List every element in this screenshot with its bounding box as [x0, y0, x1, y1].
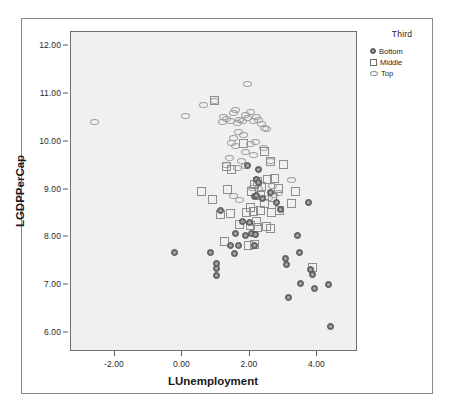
data-point-bottom — [296, 249, 303, 256]
data-point-middle — [279, 160, 288, 169]
x-tick-mark — [249, 351, 250, 356]
chart-figure-border: LGDPPerCap 6.007.008.009.0010.0011.0012.… — [21, 18, 433, 394]
y-tick-label: 11.00 — [40, 88, 61, 98]
data-point-bottom — [255, 166, 262, 173]
data-point-middle — [267, 208, 276, 217]
data-point-bottom — [227, 242, 234, 249]
open-ellipse-icon — [370, 71, 378, 76]
data-point-middle — [287, 199, 296, 208]
legend-entry-label: Top — [381, 69, 393, 78]
x-tick-mark — [114, 351, 115, 356]
data-point-top — [287, 177, 296, 183]
data-point-top — [249, 152, 258, 158]
y-tick-mark — [63, 188, 68, 189]
y-tick-mark — [63, 140, 68, 141]
y-tick-label: 7.00 — [44, 279, 61, 289]
data-point-bottom — [259, 195, 266, 202]
data-point-bottom — [285, 294, 292, 301]
x-tick-label: 2.00 — [240, 359, 257, 369]
data-point-middle — [274, 184, 283, 193]
x-axis-title: LUnemployment — [168, 375, 258, 387]
legend-title: Third — [371, 29, 433, 39]
data-point-middle — [266, 224, 275, 233]
data-point-bottom — [213, 272, 220, 279]
y-tick-label: 6.00 — [44, 327, 61, 337]
data-point-bottom — [207, 249, 214, 256]
data-point-middle — [197, 187, 206, 196]
data-point-middle — [223, 185, 232, 194]
legend-entry-bottom[interactable]: Bottom — [367, 46, 433, 56]
x-tick-mark — [181, 351, 182, 356]
data-point-top — [239, 132, 248, 138]
y-tick-mark — [63, 331, 68, 332]
data-point-top — [231, 107, 240, 113]
data-point-bottom — [232, 230, 239, 237]
y-tick-label: 9.00 — [44, 184, 61, 194]
data-point-bottom — [252, 231, 259, 238]
data-point-top — [262, 126, 271, 132]
data-point-top — [199, 102, 208, 108]
y-tick-mark — [63, 284, 68, 285]
open-square-icon — [370, 59, 377, 66]
data-point-bottom — [305, 199, 312, 206]
legend-entry-middle[interactable]: Middle — [367, 57, 433, 67]
y-tick-mark — [63, 45, 68, 46]
data-point-bottom — [311, 285, 318, 292]
x-axis: -2.000.002.004.00 LUnemployment — [70, 351, 357, 395]
y-axis: LGDPPerCap 6.007.008.009.0010.0011.0012.… — [22, 19, 70, 363]
data-point-top — [225, 155, 234, 161]
y-tick-label: 10.00 — [39, 136, 61, 146]
y-tick-mark — [63, 236, 68, 237]
data-point-bottom — [294, 232, 301, 239]
data-point-bottom — [171, 249, 178, 256]
data-point-middle — [226, 209, 235, 218]
data-point-bottom — [277, 206, 284, 213]
data-point-middle — [260, 147, 269, 156]
data-point-bottom — [325, 281, 332, 288]
data-point-middle — [291, 187, 300, 196]
plot-area — [71, 32, 356, 350]
plot-frame — [70, 31, 357, 351]
data-point-middle — [208, 195, 217, 204]
data-point-bottom — [239, 218, 246, 225]
data-point-top — [235, 197, 244, 203]
data-point-bottom — [235, 242, 242, 249]
data-point-bottom — [231, 250, 238, 257]
legend-entry-top[interactable]: Top — [367, 68, 433, 78]
data-point-bottom — [283, 261, 290, 268]
data-point-middle — [266, 157, 275, 166]
y-tick-mark — [63, 93, 68, 94]
data-point-middle — [210, 96, 219, 105]
filled-circle-icon — [370, 48, 376, 54]
data-point-middle — [246, 203, 255, 212]
data-point-top — [243, 81, 252, 87]
legend: Third BottomMiddleTop — [367, 29, 433, 79]
data-point-top — [90, 119, 99, 125]
data-point-top — [218, 119, 227, 125]
data-point-bottom — [297, 280, 304, 287]
data-point-bottom — [244, 162, 251, 169]
legend-entry-label: Middle — [380, 58, 402, 67]
data-point-bottom — [327, 323, 334, 330]
x-tick-label: -2.00 — [104, 359, 124, 369]
x-tick-label: 0.00 — [173, 359, 190, 369]
x-tick-label: 4.00 — [308, 359, 325, 369]
data-point-top — [181, 113, 190, 119]
y-axis-title: LGDPPerCap — [14, 155, 26, 227]
y-tick-label: 8.00 — [44, 231, 61, 241]
y-tick-label: 12.00 — [39, 40, 61, 50]
data-point-middle — [239, 139, 248, 148]
data-point-bottom — [309, 271, 316, 278]
legend-entries: BottomMiddleTop — [367, 46, 433, 78]
x-tick-mark — [316, 351, 317, 356]
data-point-middle — [270, 174, 279, 183]
data-point-bottom — [217, 207, 224, 214]
legend-entry-label: Bottom — [379, 47, 403, 56]
data-point-top — [251, 139, 260, 145]
data-point-bottom — [273, 199, 280, 206]
data-point-middle — [227, 165, 236, 174]
